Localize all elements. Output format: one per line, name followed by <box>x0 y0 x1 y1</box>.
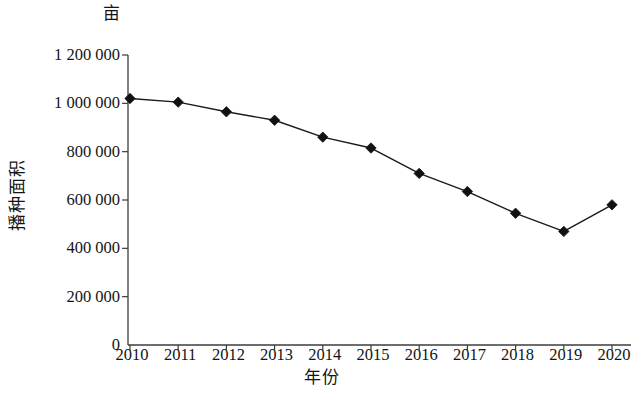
data-point-marker <box>607 200 617 210</box>
data-point-marker <box>414 168 424 178</box>
data-point-marker <box>318 132 328 142</box>
data-point-markers <box>125 93 617 236</box>
data-point-marker <box>269 115 279 125</box>
data-point-marker <box>173 97 183 107</box>
axis-lines <box>128 55 631 345</box>
axis-tick-marks <box>122 55 612 351</box>
plot-area <box>0 0 644 396</box>
chart-figure: 亩 播种面积 1 200 0001 000 000800 000600 0004… <box>0 0 644 396</box>
data-point-marker <box>510 208 520 218</box>
data-point-marker <box>462 186 472 196</box>
data-point-marker <box>221 107 231 117</box>
data-point-marker <box>559 226 569 236</box>
data-point-marker <box>366 143 376 153</box>
data-point-marker <box>125 93 135 103</box>
data-line-series <box>130 99 612 232</box>
